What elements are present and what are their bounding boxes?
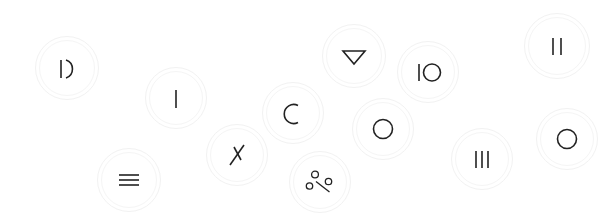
bar-arc-icon <box>52 53 82 83</box>
icon-badge-canvas: |) | C ▽ <box>0 0 613 224</box>
triple-bar-icon <box>468 145 496 173</box>
icon-badge-circle-outline-a[interactable]: O <box>352 98 414 160</box>
icon-badge-triangle-down[interactable]: ▽ <box>322 24 386 88</box>
circle-outline-icon <box>553 125 581 153</box>
hamburger-menu-icon <box>114 168 144 192</box>
double-bar-icon <box>543 32 571 60</box>
circle-outline-icon <box>369 115 397 143</box>
vertical-bar-icon <box>162 84 190 112</box>
triangle-down-icon <box>338 40 370 72</box>
icon-badge-vertical-bar[interactable]: | <box>145 67 207 129</box>
icon-badge-double-bar[interactable]: || <box>524 13 590 79</box>
icon-badge-bar-arc[interactable]: |) <box>35 36 99 100</box>
icon-badge-circle-outline-b[interactable]: O <box>536 108 598 170</box>
icon-badge-crescent[interactable]: C <box>262 82 324 144</box>
icon-badge-power-bar-circle[interactable]: |O <box>397 41 459 103</box>
scatter-dots-icon <box>303 167 337 197</box>
icon-badge-scatter-dots[interactable]: °∕° <box>289 151 351 213</box>
crescent-icon <box>279 99 307 127</box>
icon-badge-triple-bar[interactable]: ||| <box>451 128 513 190</box>
crossed-slash-icon <box>223 140 251 170</box>
power-bar-circle-icon <box>412 58 444 86</box>
icon-badge-crossed-slash[interactable]: ✗ <box>206 124 268 186</box>
icon-badge-hamburger[interactable]: ≡ <box>97 148 161 212</box>
